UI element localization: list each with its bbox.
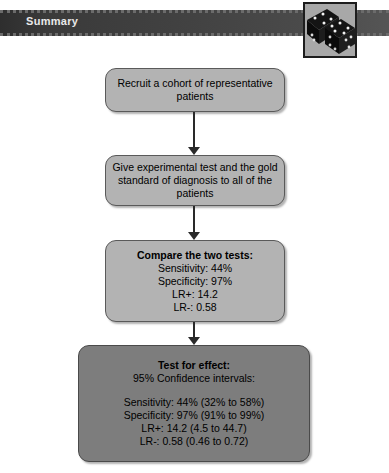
ci-sensitivity: Sensitivity: 44% (32% to 58%) <box>124 396 265 409</box>
arrow-head-icon <box>188 232 200 240</box>
metric-lr-positive: LR+: 14.2 <box>172 288 218 301</box>
diagnostic-study-flowchart: Recruit a cohort of representative patie… <box>0 0 389 473</box>
flow-text-line: patients <box>177 187 214 200</box>
flow-text-line: patients <box>177 90 214 103</box>
metric-specificity: Specificity: 97% <box>158 275 232 288</box>
flow-text-line: Give experimental test and the gold <box>112 161 277 174</box>
ci-lr-negative: LR-: 0.58 (0.46 to 0.72) <box>140 435 249 448</box>
flow-box-give-test: Give experimental test and the gold stan… <box>105 155 285 206</box>
flow-box-heading: Test for effect: <box>158 359 230 372</box>
ci-lr-positive: LR+: 14.2 (4.5 to 44.7) <box>141 422 246 435</box>
metric-sensitivity: Sensitivity: 44% <box>158 262 232 275</box>
flow-box-heading: Compare the two tests: <box>137 249 253 262</box>
ci-specificity: Specificity: 97% (91% to 99%) <box>124 409 265 422</box>
connector-line <box>193 112 195 147</box>
connector-line <box>193 206 195 232</box>
flow-text-line: Recruit a cohort of representative <box>117 77 272 90</box>
flow-box-test-for-effect: Test for effect: 95% Confidence interval… <box>78 345 310 462</box>
arrow-head-icon <box>188 337 200 345</box>
flow-box-compare-tests: Compare the two tests: Sensitivity: 44% … <box>105 240 285 322</box>
flow-box-subheading: 95% Confidence intervals: <box>133 372 255 385</box>
connector-line <box>193 322 195 337</box>
flow-box-recruit: Recruit a cohort of representative patie… <box>105 68 285 112</box>
arrow-head-icon <box>188 147 200 155</box>
flow-text-line: standard of diagnosis to all of the <box>118 174 272 187</box>
metric-lr-negative: LR-: 0.58 <box>173 301 216 314</box>
